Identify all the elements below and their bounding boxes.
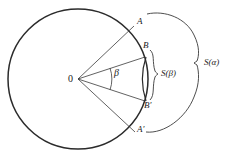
brace-s-beta xyxy=(150,50,158,100)
arc-b-to-b-prime xyxy=(142,57,146,101)
angle-beta-label: β xyxy=(114,68,119,78)
s-beta-label: S(β) xyxy=(161,69,176,78)
s-alpha-label: S(α) xyxy=(204,58,219,67)
geometry-figure: 0 A B B' A' β S(β) S(α) xyxy=(0,0,243,161)
point-label-b-prime: B' xyxy=(144,101,151,110)
point-label-a-prime: A' xyxy=(137,125,144,134)
point-label-b: B xyxy=(143,41,149,50)
diagram-canvas xyxy=(0,0,243,161)
radius-to-a-prime xyxy=(78,79,135,132)
radius-to-a xyxy=(78,26,134,79)
angle-beta-arc xyxy=(110,68,112,90)
center-label: 0 xyxy=(68,74,73,84)
point-label-a: A xyxy=(137,17,143,26)
